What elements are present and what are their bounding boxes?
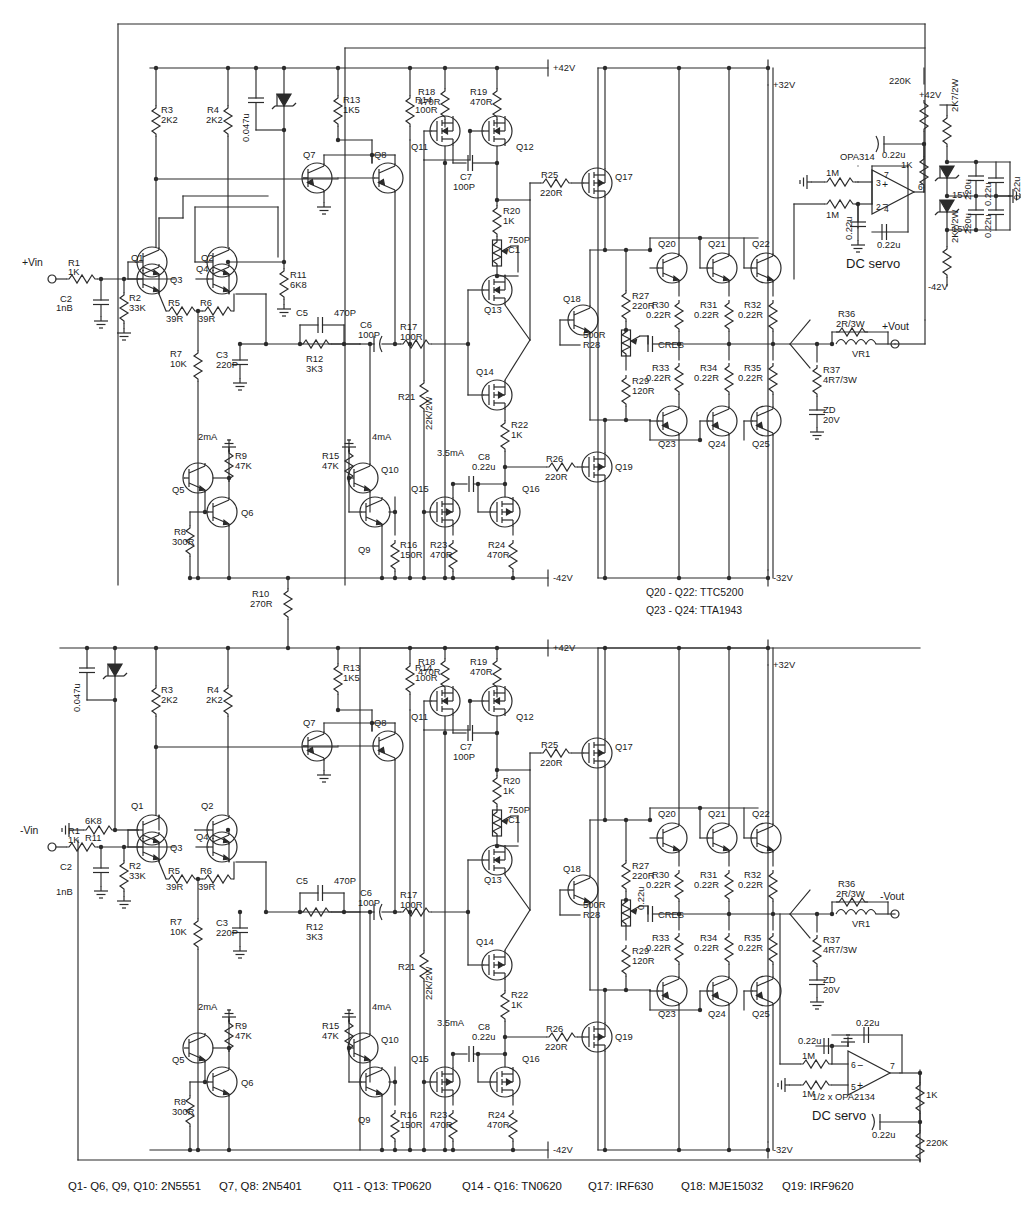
ref-R26-b: R26 (546, 1023, 563, 1034)
val-C6-a: 100P (453, 181, 475, 192)
ref-Q19-b: Q19 (615, 1031, 633, 1042)
footer-notes: Q1- Q6, Q9, Q10: 2N5551 Q7, Q8: 2N5401 Q… (68, 1180, 854, 1192)
r10-bridge: R10 270R (250, 576, 292, 650)
val-reservoir-cap-b: 0.047u (71, 683, 82, 712)
rail-label-neg32-a: -32V (773, 572, 794, 583)
rail-label-pos32-a: +32V (773, 79, 796, 90)
val-R21-a: 22K/2W (423, 397, 434, 430)
bias-supply-a: 0.047u R11 6K8 (228, 66, 307, 316)
ref-Q4-b: Q4 (196, 831, 209, 842)
ref-L1-b: VR1 (852, 918, 870, 929)
ref-Q5-a: Q5 (172, 484, 185, 495)
val-C9-b: 20V (823, 984, 840, 995)
footer-note-0: Q1- Q6, Q9, Q10: 2N5551 (68, 1180, 201, 1192)
val-R18-a: 470R (418, 96, 441, 107)
val-R29-b: 120R (632, 955, 655, 966)
val-R32-b: 0.22R (738, 879, 763, 890)
ref-Q14-a: Q14 (476, 366, 494, 377)
val-R7-b: 10K (170, 926, 187, 937)
ref-C3-a: C5 (296, 307, 308, 318)
val-C2-a: 220P (216, 359, 238, 370)
servo-bot-rin-a: 1M (802, 1050, 815, 1061)
footer-note-6: Q19: IRF9620 (782, 1180, 854, 1192)
rail-label-neg32-b: -32V (773, 1144, 794, 1155)
val-C3-b: 470P (334, 875, 356, 886)
ref-Q18-a: Q18 (563, 293, 581, 304)
bias-supply-b: 0.047u 6K8 R11 (62, 646, 138, 843)
servo-bot-opamp-label: 1/2 x OPA2134 (812, 1091, 875, 1102)
val-C3-a: 470P (334, 307, 356, 318)
servo-bot-title: DC servo (812, 1108, 866, 1123)
ref-Q17-b: Q17 (615, 741, 633, 752)
val-R13-a: 1K5 (343, 104, 360, 115)
val-R18-b: 470R (418, 666, 441, 677)
val-R23-b: 470R (430, 1119, 453, 1130)
val-C7-b: 0.22u (472, 1031, 495, 1042)
current-i3-a: 3.5mA (437, 447, 465, 458)
lower-cascode-a: Q15 Q16 C8 0.22u R23 470R R24 470R (411, 451, 540, 580)
val-R5-a: 39R (166, 313, 183, 324)
output-stage-a: Q20 Q21 Q22 R30 0.22R R31 0.22R R32 0.22… (505, 66, 832, 580)
val-R19-b: 470R (470, 666, 493, 677)
val-C5-b: 100P (358, 897, 380, 908)
ref-R25-a: R25 (541, 169, 558, 180)
servo-top-rin-b: 1M (826, 209, 839, 220)
servo-top-rail-neg: -42V (928, 281, 949, 292)
ref-Q7-a: Q7 (303, 149, 316, 160)
ref-Q6-a: Q6 (241, 507, 254, 518)
ref-R21-b: R21 (398, 961, 415, 972)
val-R24-b: 470R (487, 1119, 510, 1130)
servo-top-cfb: 0.22u (877, 239, 900, 250)
val-R2-b: 33K (129, 870, 146, 881)
val-R33-a: 0.22R (646, 372, 671, 383)
ref-Q21-a: Q21 (708, 238, 726, 249)
val-C8-b: 0.22u (635, 887, 646, 910)
val-R15-b: 47K (322, 1030, 339, 1041)
servo-top-cneg2: 0.22u (982, 215, 993, 238)
servo-top-pin7: 7 (884, 170, 889, 180)
val-R29-a: 120R (632, 385, 655, 396)
svg-text:+: + (882, 179, 888, 190)
val-R19-a: 470R (470, 96, 493, 107)
ref-R5-b: R5 (168, 865, 180, 876)
ref-R5-a: R5 (168, 297, 180, 308)
ref-C1-b: C2 (60, 861, 72, 872)
servo-bot-pin7: 7 (890, 1061, 895, 1071)
servo-top-pin3: 3 (876, 178, 881, 188)
ref-R26-a: R26 (546, 453, 563, 464)
ref-C3-b: C5 (296, 875, 308, 886)
servo-bot-r-out-bot: 220K (926, 1137, 949, 1148)
servo-top-opamp-label: OPA314 (840, 151, 875, 162)
val-C1-a: 1nB (56, 302, 73, 313)
servo-bot-pin6: 6 (851, 1060, 856, 1070)
ref-Q10-a: Q10 (381, 464, 399, 475)
servo-top-r-out-top: 220K (889, 75, 912, 86)
ref-Q16-a: Q16 (522, 483, 540, 494)
ref-Q15-b: Q15 (411, 1053, 429, 1064)
val-R9-b: 47K (235, 1030, 252, 1041)
output-filter-a: R36 2R/3W VR1 +Vout R37 4R7/3W ZD 20V (809, 308, 925, 439)
channel-a: +42V -42V +32V -32V +Vin R1 1K C2 1nB (22, 24, 925, 650)
ref-Q16-b: Q16 (522, 1053, 540, 1064)
servo-top-pin4: 4 (884, 204, 889, 214)
rail-label-pos32-b: +32V (773, 659, 796, 670)
ref-Q12-a: Q12 (516, 141, 534, 152)
val-R21-b: 22K/2W (423, 967, 434, 1000)
servo-top-rdrop-pos: 2K7/2W (949, 79, 960, 112)
val-R3-b: 2K2 (161, 694, 178, 705)
servo-top-cpos: 220u (962, 179, 973, 200)
ref-Q25-a: Q25 (752, 438, 770, 449)
ref-Q9-b: Q9 (358, 1114, 371, 1125)
val-R12-b: 3K3 (306, 931, 323, 942)
val-R8-b: 300R (172, 1106, 195, 1117)
val-R7-a: 10K (170, 358, 187, 369)
current-i1-b: 2mA (198, 1001, 218, 1012)
servo-top-cpos3: 0.22u (1011, 177, 1022, 200)
rail-label-neg42-a: -42V (553, 572, 574, 583)
ref-Q14-b: Q14 (476, 936, 494, 947)
current-source2-a: Q9 Q10 R15 47K R16 150R 4mA (322, 342, 423, 580)
current-i1-a: 2mA (198, 431, 218, 442)
ref-Q3-a: Q3 (170, 274, 183, 285)
val-C7-a: 0.22u (472, 461, 495, 472)
val-C9-a: 20V (823, 414, 840, 425)
